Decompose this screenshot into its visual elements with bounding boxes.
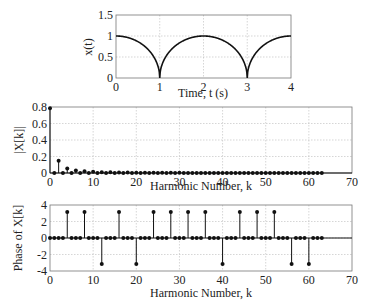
- x-tick-label: 70: [346, 273, 358, 287]
- stem-marker: [117, 210, 121, 214]
- y-tick-label: 2: [41, 215, 47, 229]
- stem-marker: [91, 170, 95, 174]
- stem-marker: [251, 171, 255, 175]
- stem-marker: [251, 236, 255, 240]
- stem-marker: [52, 236, 56, 240]
- stem-marker: [307, 262, 311, 266]
- x-tick-label: 10: [87, 273, 99, 287]
- p2-xlabel: Harmonic Number, k: [150, 179, 252, 193]
- stem-marker: [152, 171, 156, 175]
- stem-marker: [242, 171, 246, 175]
- stem-marker: [169, 171, 173, 175]
- stem-marker: [65, 166, 69, 170]
- stem-marker: [203, 171, 207, 175]
- stem-marker: [190, 236, 194, 240]
- phase-spectrum-plot: 010203040506070-4-2024: [37, 198, 358, 287]
- stem-marker: [147, 236, 151, 240]
- p3-xlabel: Harmonic Number, k: [150, 286, 252, 300]
- stem-marker: [108, 236, 112, 240]
- stem-marker: [186, 210, 190, 214]
- stem-marker: [108, 170, 112, 174]
- stem-marker: [143, 236, 147, 240]
- stem-marker: [212, 236, 216, 240]
- x-tick-label: 70: [346, 175, 358, 189]
- x-tick-label: 60: [303, 175, 315, 189]
- y-tick-label: -2: [37, 248, 47, 262]
- stem-marker: [298, 236, 302, 240]
- x-tick-label: 50: [260, 175, 272, 189]
- stem-marker: [277, 236, 281, 240]
- stem-marker: [246, 236, 250, 240]
- stem-marker: [61, 171, 65, 175]
- y-tick-label: -4: [37, 264, 47, 278]
- stem-marker: [182, 171, 186, 175]
- stem-marker: [272, 210, 276, 214]
- stem-marker: [221, 171, 225, 175]
- stem-marker: [208, 171, 212, 175]
- y-tick-label: 0.5: [98, 50, 113, 64]
- stem-marker: [130, 236, 134, 240]
- stem-marker: [95, 171, 99, 175]
- stem-marker: [303, 236, 307, 240]
- stem-marker: [315, 236, 319, 240]
- x-tick-label: 40: [217, 273, 229, 287]
- y-tick-label: 0: [41, 166, 47, 180]
- stem-marker: [143, 171, 147, 175]
- x-tick-label: 0: [47, 175, 53, 189]
- stem-marker: [320, 171, 324, 175]
- stem-marker: [113, 171, 117, 175]
- stem-marker: [70, 236, 74, 240]
- stem-marker: [285, 236, 289, 240]
- stem-marker: [100, 170, 104, 174]
- stem-marker: [57, 159, 61, 163]
- stem-marker: [147, 171, 151, 175]
- stem-marker: [303, 171, 307, 175]
- x-tick-label: 0: [47, 273, 53, 287]
- p1-xlabel: Time, t (s): [178, 86, 228, 100]
- stem-marker: [126, 171, 130, 175]
- stem-marker: [225, 236, 229, 240]
- p3-ylabel: Phase of X[k]: [11, 205, 25, 272]
- stem-marker: [320, 236, 324, 240]
- y-tick-label: 0: [41, 231, 47, 245]
- p1-ylabel: x(t): [81, 38, 95, 55]
- stem-marker: [216, 171, 220, 175]
- stem-marker: [268, 171, 272, 175]
- stem-marker: [156, 236, 160, 240]
- x-tick-label: 30: [173, 273, 185, 287]
- stem-marker: [164, 236, 168, 240]
- stem-marker: [134, 171, 138, 175]
- stem-marker: [104, 236, 108, 240]
- stem-marker: [281, 236, 285, 240]
- magnitude-spectrum-plot: 01020304050607000.20.40.60.8: [32, 100, 358, 189]
- stem-marker: [264, 171, 268, 175]
- stem-marker: [104, 171, 108, 175]
- stem-marker: [57, 236, 61, 240]
- stem-marker: [173, 236, 177, 240]
- stem-marker: [83, 210, 87, 214]
- stem-marker: [126, 236, 130, 240]
- stem-marker: [264, 236, 268, 240]
- stem-marker: [199, 236, 203, 240]
- stem-marker: [160, 171, 164, 175]
- stem-marker: [117, 171, 121, 175]
- stem-marker: [78, 171, 82, 175]
- stem-marker: [259, 171, 263, 175]
- p2-ylabel: |X[k]|: [12, 126, 26, 153]
- stem-marker: [113, 236, 117, 240]
- stem-marker: [152, 210, 156, 214]
- time-signal-plot: 0123400.511.5: [98, 8, 294, 94]
- stem-marker: [294, 236, 298, 240]
- stem-marker: [234, 171, 238, 175]
- x-tick-label: 1: [157, 80, 163, 94]
- stem-marker: [182, 236, 186, 240]
- x-tick-label: 20: [130, 175, 142, 189]
- stem-marker: [134, 262, 138, 266]
- stem-marker: [91, 236, 95, 240]
- stem-marker: [255, 171, 259, 175]
- x-tick-label: 20: [130, 273, 142, 287]
- stem-marker: [70, 171, 74, 175]
- stem-marker: [48, 106, 52, 110]
- stem-marker: [307, 171, 311, 175]
- stem-marker: [74, 236, 78, 240]
